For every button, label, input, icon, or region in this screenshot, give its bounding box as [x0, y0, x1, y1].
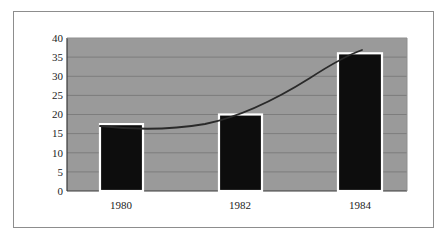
y-tick-label-10: 10	[41, 148, 63, 159]
plot-container: 40 35 30 25 20 15 10 5 0 1980 1982 1984	[0, 0, 448, 241]
bar-1982	[219, 115, 262, 192]
x-category-label-1982: 1982	[210, 199, 270, 211]
y-tick-label-5: 5	[41, 167, 63, 178]
bar-1984	[338, 53, 382, 191]
y-tick-label-30: 30	[41, 71, 63, 82]
y-tick-label-25: 25	[41, 90, 63, 101]
bar-1980	[100, 124, 143, 191]
y-tick-label-0: 0	[41, 186, 63, 197]
chart-figure: 40 35 30 25 20 15 10 5 0 1980 1982 1984	[0, 0, 448, 241]
y-tick-label-20: 20	[41, 109, 63, 120]
x-category-label-1984: 1984	[330, 199, 390, 211]
x-category-label-1980: 1980	[91, 199, 151, 211]
y-tick-label-40: 40	[41, 33, 63, 44]
y-tick-label-35: 35	[41, 52, 63, 63]
y-tick-label-15: 15	[41, 128, 63, 139]
